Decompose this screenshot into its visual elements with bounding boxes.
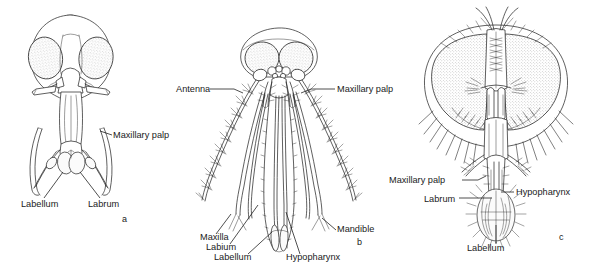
- label-labrum-c: Labrum: [424, 194, 455, 204]
- label-maxillary-palp-b: Maxillary palp: [337, 84, 393, 94]
- label-labium-b: Labium: [206, 242, 236, 252]
- maxillary-palp-left-c: [461, 155, 485, 176]
- insect-mouthparts-illustration: Maxillary palp Labellum Labrum Antenna M…: [0, 0, 596, 271]
- antenna-left-b: [196, 80, 259, 201]
- label-maxilla-b: Maxilla: [200, 232, 229, 242]
- labrum-stylet-b: [274, 96, 279, 242]
- leader-labellum-b: [248, 232, 272, 254]
- panel-a-drawing: [25, 15, 116, 198]
- leader-labellum-a: [44, 172, 63, 198]
- label-antenna-b: Antenna: [176, 84, 211, 94]
- label-hypopharynx-c: Hypopharynx: [516, 187, 571, 197]
- leader-mandible-b: [322, 218, 336, 230]
- label-labellum-a: Labellum: [21, 199, 59, 209]
- label-hypopharynx-b: Hypopharynx: [286, 252, 341, 262]
- labellum-left-b: [270, 225, 279, 251]
- figure-container: Maxillary palp Labellum Labrum Antenna M…: [0, 0, 596, 271]
- maxillary-palp-right-c: [507, 155, 531, 176]
- antenna-right-b: [299, 80, 362, 201]
- label-labrum-a: Labrum: [88, 199, 119, 209]
- panel-caption-a: a: [122, 214, 127, 224]
- label-maxillary-palp-c: Maxillary palp: [389, 175, 445, 185]
- antenna-segment-right-c: [498, 88, 505, 121]
- label-labellum-c: Labellum: [467, 243, 505, 253]
- panel-b-drawing: [196, 28, 362, 254]
- antenna-segment-left-c: [487, 88, 494, 121]
- leader-labium-b: [230, 205, 258, 244]
- maxilla-stylets: [229, 92, 329, 231]
- panel-caption-c: c: [559, 232, 564, 242]
- panel-c-drawing: [419, 7, 573, 248]
- label-mandible-b: Mandible: [337, 224, 374, 234]
- label-maxillary-palp-a: Maxillary palp: [113, 130, 169, 140]
- panel-caption-b: b: [357, 237, 362, 247]
- leader-labrum-a: [80, 172, 100, 198]
- label-labellum-b: Labellum: [214, 252, 252, 262]
- leader-maxilla-b: [216, 214, 231, 234]
